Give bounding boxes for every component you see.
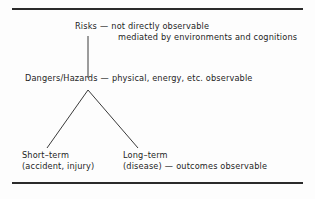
node-risks: Risks—not directly observable mediated b… <box>75 21 297 42</box>
node-long-term-description: outcomes observable <box>176 161 267 172</box>
node-risks-description-line1: not directly observable <box>111 21 209 32</box>
node-long-term-detail: (disease) <box>123 161 162 172</box>
node-long-term-row: (disease)—outcomes observable <box>123 161 267 172</box>
node-long-term-term: Long–term <box>123 150 267 161</box>
connector-dangers-to-short-term <box>47 90 88 148</box>
node-short-term-term: Short–term <box>22 150 94 161</box>
node-dangers-dash: — <box>98 73 112 84</box>
node-long-term: Long–term (disease)—outcomes observable <box>123 150 267 171</box>
node-dangers-row: Dangers/Hazards—physical, energy, etc. o… <box>25 73 253 84</box>
connector-dangers-to-long-term <box>88 90 138 148</box>
node-dangers: Dangers/Hazards—physical, energy, etc. o… <box>25 73 253 84</box>
node-short-term: Short–term (accident, injury) <box>22 150 94 171</box>
diagram-figure: Risks—not directly observable mediated b… <box>0 0 315 199</box>
node-dangers-description: physical, energy, etc. observable <box>112 73 253 84</box>
node-long-term-dash: — <box>162 161 176 172</box>
node-risks-primary-row: Risks—not directly observable <box>75 21 297 32</box>
node-risks-term: Risks <box>75 21 97 32</box>
node-dangers-term: Dangers/Hazards <box>25 73 98 84</box>
node-risks-description-line2: mediated by environments and cognitions <box>75 32 297 43</box>
node-short-term-detail: (accident, injury) <box>22 161 94 172</box>
node-risks-dash: — <box>97 21 111 32</box>
